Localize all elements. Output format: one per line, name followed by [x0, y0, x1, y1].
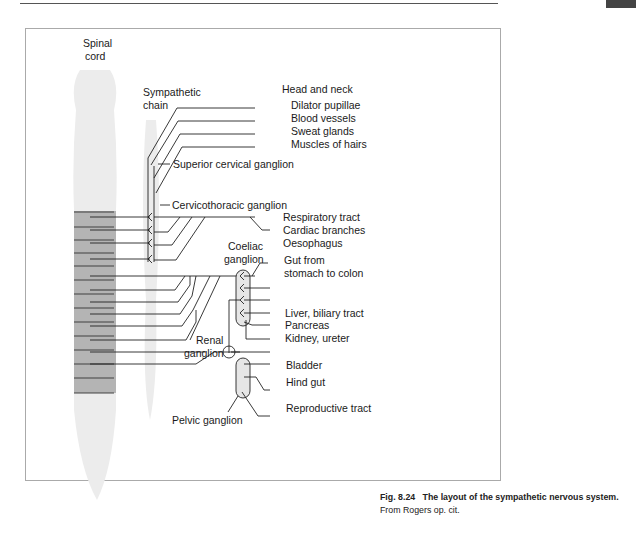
label-coeliac-ganglion-1: Coeliac: [228, 240, 263, 252]
label-sympathetic-chain-2: chain: [143, 99, 168, 111]
target-kidney-ureter: Kidney, ureter: [285, 332, 350, 344]
target-oesophagus: Oesophagus: [283, 237, 343, 249]
target-gut-from: Gut from: [284, 254, 325, 266]
label-pelvic-ganglion: Pelvic ganglion: [172, 414, 243, 426]
target-pancreas: Pancreas: [285, 319, 329, 331]
target-sweat-glands: Sweat glands: [291, 125, 354, 137]
target-muscles-of-hairs: Muscles of hairs: [291, 138, 367, 150]
target-reproductive-tract: Reproductive tract: [286, 402, 371, 414]
synapse-marks: [148, 213, 244, 317]
caption-figure-number: Fig. 8.24: [380, 492, 415, 502]
label-coeliac-ganglion-2: ganglion: [224, 253, 264, 265]
target-hind-gut: Hind gut: [286, 376, 325, 388]
label-renal-ganglion-2: ganglion: [184, 347, 224, 359]
target-cardiac-branches: Cardiac branches: [283, 224, 365, 236]
caption-source: From Rogers op. cit.: [380, 505, 460, 515]
sympathetic-diagram: Spinal cord Sympathetic chain Head and n…: [0, 0, 636, 544]
label-sympathetic-chain-1: Sympathetic: [143, 86, 201, 98]
target-blood-vessels: Blood vessels: [291, 112, 356, 124]
target-liver-biliary-tract: Liver, biliary tract: [285, 307, 364, 319]
target-respiratory-tract: Respiratory tract: [283, 211, 360, 223]
label-superior-cervical-ganglion: Superior cervical ganglion: [173, 158, 294, 170]
target-bladder: Bladder: [286, 359, 323, 371]
label-cervicothoracic-ganglion: Cervicothoracic ganglion: [172, 199, 287, 211]
label-head-and-neck: Head and neck: [282, 83, 353, 95]
figure-caption: Fig. 8.24 The layout of the sympathetic …: [380, 491, 630, 517]
target-stomach-to-colon: stomach to colon: [284, 267, 364, 279]
label-spinal-cord-2: cord: [85, 50, 106, 62]
target-dilator-pupillae: Dilator pupillae: [291, 99, 361, 111]
caption-title: The layout of the sympathetic nervous sy…: [423, 492, 619, 502]
label-renal-ganglion-1: Renal: [196, 334, 223, 346]
label-spinal-cord-1: Spinal: [83, 37, 112, 49]
